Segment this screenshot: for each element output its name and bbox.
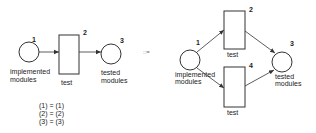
right-place-3-label-line2: modules	[275, 80, 302, 87]
arc-right-1-to-2	[197, 30, 224, 52]
refinement-symbol: ::=	[143, 49, 150, 55]
left-place-3-label-line2: modules	[101, 77, 128, 84]
left-place-3-label-line1: tested	[101, 69, 120, 76]
right-transition-4-number: 4	[249, 62, 253, 69]
arc-right-2-to-3	[245, 31, 275, 53]
right-place-1-label-line2: modules	[175, 78, 202, 85]
equation-3: (3) = (3)	[39, 118, 64, 126]
left-place-tested-modules	[101, 44, 121, 64]
left-place-1-label-line2: modules	[10, 76, 37, 83]
right-transition-4-label: test	[227, 109, 238, 116]
left-transition-test	[59, 35, 79, 74]
right-place-1-number: 1	[196, 39, 200, 46]
equation-1: (1) = (1)	[39, 102, 64, 110]
mapping-equations: (1) = (1) (2) = (2) (3) = (3)	[39, 102, 64, 126]
right-transition-test-lower	[224, 67, 245, 107]
right-transition-2-label: test	[227, 51, 238, 58]
right-place-implemented-modules	[180, 50, 200, 70]
left-place-3-number: 3	[120, 37, 124, 44]
petri-net-diagram: 1 implemented modules 2 test 3 tested mo…	[0, 0, 316, 133]
left-place-1-label-line1: implemented	[10, 68, 50, 76]
right-place-3-number: 3	[290, 40, 294, 47]
right-place-3-label-line1: tested	[275, 73, 294, 80]
left-net: 1 implemented modules 2 test 3 tested mo…	[10, 29, 128, 86]
left-place-implemented-modules	[19, 42, 39, 62]
right-place-tested-modules	[272, 52, 292, 72]
left-transition-2-number: 2	[83, 29, 87, 36]
arc-right-4-to-3	[245, 70, 274, 86]
left-place-1-number: 1	[32, 36, 36, 43]
left-transition-2-label: test	[61, 79, 72, 86]
equation-2: (2) = (2)	[39, 110, 64, 118]
right-transition-test-upper	[224, 11, 245, 49]
right-net: 1 implemented modules 2 test 4 test 3 te…	[175, 6, 302, 116]
right-transition-2-number: 2	[249, 6, 253, 13]
